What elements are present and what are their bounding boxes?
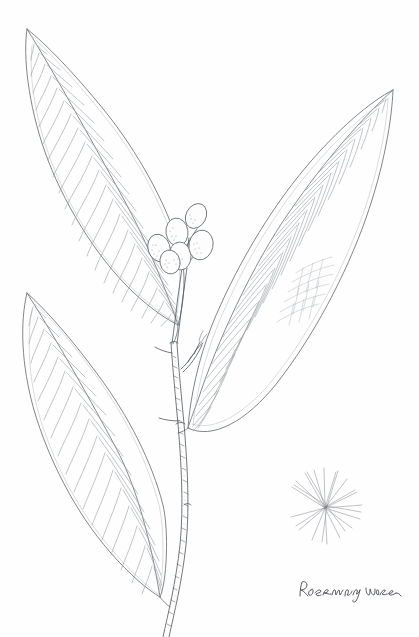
leaf-upper-left: [26, 29, 184, 344]
leaf-right: [178, 90, 393, 433]
leaf-lateral-veins: [193, 99, 386, 431]
botanical-illustration-canvas: [0, 0, 419, 637]
leaf-midrib: [188, 90, 393, 428]
stem-bract: [159, 418, 179, 421]
stem-bract: [155, 347, 172, 353]
main-stem: [155, 268, 207, 637]
signature-icon: [300, 582, 401, 602]
leaf-reticulate-detail: [277, 257, 334, 325]
stellate-hair-icon: [291, 468, 362, 544]
leaf-lower-left: [23, 293, 170, 607]
leaf-lateral-veins: [31, 44, 179, 326]
illustration-plate: Botanical line drawing — leafy branch wi…: [0, 0, 419, 637]
leaf-lateral-veins: [29, 307, 162, 594]
stem-texture: [167, 356, 188, 626]
leaf-petiole: [160, 597, 170, 607]
